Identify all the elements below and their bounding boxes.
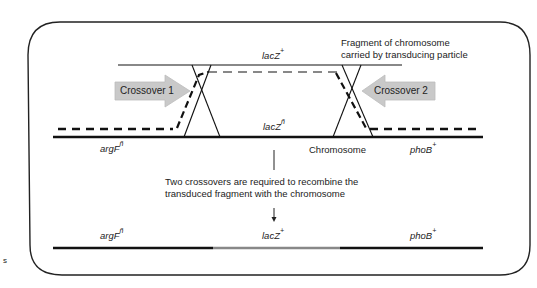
crossover1-label: Crossover 1: [120, 85, 174, 96]
gene-name: phoB: [410, 144, 432, 155]
gene-sup: +: [432, 227, 436, 234]
margin-text-fragment: s: [3, 256, 7, 265]
gene-label-lacZ-minus: lacZñ: [263, 121, 285, 132]
gene-name: lacZ: [263, 121, 281, 132]
result-label-lacZ: lacZ+: [262, 230, 284, 241]
down-arrow-head: [272, 217, 277, 222]
fragment-caption: Fragment of chromosome carried by transd…: [341, 37, 468, 61]
crossover1-dashed: [177, 72, 208, 128]
gene-sup: ñ: [120, 140, 124, 147]
gene-label-lacZ-plus: lacZ+: [262, 50, 284, 61]
gene-name: phoB: [410, 230, 432, 241]
gene-sup: ñ: [281, 118, 285, 125]
gene-label-argF-minus: argFñ: [100, 143, 123, 154]
gene-sup: ñ: [120, 227, 124, 234]
gene-name: lacZ: [262, 230, 280, 241]
gene-name: argF: [100, 143, 120, 154]
gene-label-phoB-plus: phoB+: [410, 144, 436, 155]
gene-sup: +: [280, 227, 284, 234]
fragment-caption-line2: carried by transducing particle: [341, 49, 468, 61]
fragment-caption-line1: Fragment of chromosome: [341, 37, 468, 49]
gene-sup: +: [432, 141, 436, 148]
gene-name: argF: [100, 230, 120, 241]
gene-name: lacZ: [262, 50, 280, 61]
result-label-phoB: phoB+: [410, 230, 436, 241]
explanation-line2: transduced fragment with the chromosome: [165, 188, 358, 200]
explanation-line1: Two crossovers are required to recombine…: [165, 176, 358, 188]
crossover1-x-a: [192, 65, 220, 137]
crossover2-label: Crossover 2: [374, 85, 428, 96]
chromosome-label: Chromosome: [309, 144, 366, 155]
crossover2-dashed: [336, 73, 366, 128]
result-label-argF: argFñ: [100, 230, 123, 241]
explanation-text: Two crossovers are required to recombine…: [165, 176, 358, 200]
gene-sup: +: [280, 47, 284, 54]
